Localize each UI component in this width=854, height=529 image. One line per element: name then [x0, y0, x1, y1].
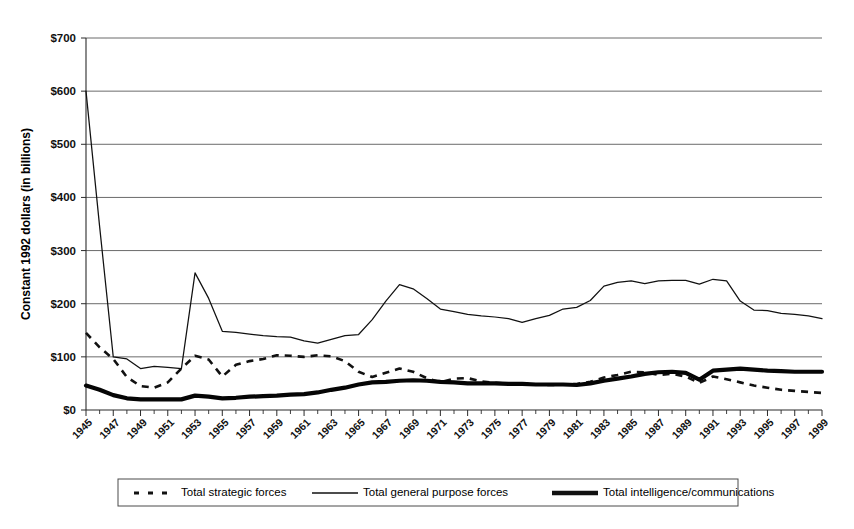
legend-item-label: Total general purpose forces	[363, 486, 508, 498]
y-axis-tick-label: $100	[50, 351, 76, 363]
y-axis-title: Constant 1992 dollars (in billions)	[19, 128, 33, 320]
y-axis-ticks-group	[81, 38, 86, 410]
x-axis-tick-label: 1989	[669, 416, 694, 441]
x-axis-tick-label: 1983	[587, 416, 612, 441]
y-axis-tick-label: $300	[50, 245, 76, 257]
x-axis-tick-label: 1977	[506, 416, 531, 441]
x-axis-tick-label: 1953	[178, 416, 203, 441]
x-axis-tick-label: 1993	[724, 416, 749, 441]
y-axis-tick-label: $600	[50, 85, 76, 97]
legend-item-label: Total strategic forces	[181, 486, 287, 498]
x-axis-ticks-group	[86, 410, 822, 416]
x-axis-tick-label: 1979	[533, 416, 558, 441]
x-axis-tick-label: 1999	[805, 416, 830, 441]
y-axis-tick-label: $700	[50, 32, 76, 44]
x-axis-tick-label: 1949	[124, 416, 149, 441]
x-axis-tick-label: 1951	[151, 416, 176, 441]
chart-container: $0$100$200$300$400$500$600$700 194519471…	[0, 0, 854, 529]
x-axis-tick-label: 1995	[751, 416, 776, 441]
legend-content-group: Total strategic forcesTotal general purp…	[134, 486, 775, 498]
x-axis-tick-label: 1957	[233, 416, 258, 441]
y-axis-tick-labels-group: $0$100$200$300$400$500$600$700	[50, 32, 76, 416]
y-axis-tick-label: $0	[63, 404, 76, 416]
x-axis-tick-label: 1975	[478, 416, 503, 441]
series-line-total-general-purpose-forces	[86, 91, 822, 368]
x-axis-tick-label: 1955	[206, 416, 231, 441]
x-axis-tick-label: 1985	[615, 416, 640, 441]
x-axis-tick-label: 1997	[778, 416, 803, 441]
y-axis-tick-label: $400	[50, 191, 76, 203]
x-axis-tick-label: 1971	[424, 416, 449, 441]
x-axis-tick-label: 1981	[560, 416, 585, 441]
x-axis-tick-label: 1959	[260, 416, 285, 441]
x-axis-tick-label: 1987	[642, 416, 667, 441]
x-axis-tick-label: 1969	[397, 416, 422, 441]
series-line-total-intelligence-communications	[86, 369, 822, 400]
x-axis-tick-label: 1961	[287, 416, 312, 441]
x-axis-tick-labels-group: 1945194719491951195319551957195919611963…	[69, 416, 830, 441]
gridlines-group	[86, 38, 822, 357]
legend-item-label: Total intelligence/communications	[603, 486, 775, 498]
defense-spending-line-chart: $0$100$200$300$400$500$600$700 194519471…	[0, 0, 854, 529]
x-axis-tick-label: 1991	[696, 416, 721, 441]
x-axis-tick-label: 1973	[451, 416, 476, 441]
y-axis-tick-label: $200	[50, 298, 76, 310]
x-axis-tick-label: 1967	[369, 416, 394, 441]
y-axis-tick-label: $500	[50, 138, 76, 150]
x-axis-tick-label: 1945	[69, 416, 94, 441]
x-axis-tick-label: 1965	[342, 416, 367, 441]
x-axis-tick-label: 1947	[97, 416, 122, 441]
x-axis-tick-label: 1963	[315, 416, 340, 441]
